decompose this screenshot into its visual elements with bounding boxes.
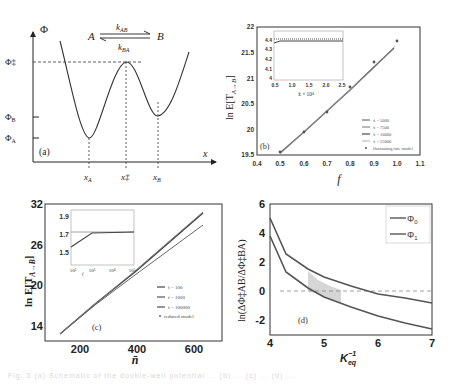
b-xtick: 0.4 [252, 160, 261, 167]
a-reaction-right: B [157, 30, 164, 42]
b-inset-frame [274, 31, 343, 80]
d-ytick: 4 [259, 227, 266, 239]
b-xtick: 0.9 [369, 160, 378, 167]
c-inset-frame [71, 210, 134, 265]
b-inset-ytick: 4 [269, 75, 272, 81]
b-inset-xtick: 2.0 [323, 82, 330, 88]
panel-c: 32 26 20 14 200 400 600 n̄ ln E[TA→B] (c… [22, 198, 222, 367]
b-inset-ytick: 4.4 [265, 37, 272, 43]
a-xb: xB [152, 172, 161, 183]
c-legend-item: f = 100 [168, 285, 183, 290]
c-legend: f = 100 f = 1000 f = 100000 reduced mode… [157, 285, 194, 319]
c-xtick: 600 [185, 343, 203, 355]
b-xtick: 0.7 [322, 160, 331, 167]
b-xtick: 0.8 [345, 160, 354, 167]
d-ytick: -2 [255, 314, 265, 326]
c-ytick: 26 [31, 239, 43, 251]
b-ytick: 20 [247, 126, 255, 133]
c-inset-xtick: 10⁴ [109, 268, 116, 273]
d-xtick: 6 [375, 337, 381, 349]
c-inset-ytick: 1.9 [59, 213, 69, 220]
b-legend-item: x̄ = 7500 [373, 125, 390, 130]
b-xtick: 1.1 [415, 160, 424, 167]
b-ytick: 22 [247, 23, 255, 30]
b-ytick: 21 [247, 75, 255, 82]
b-inset-xtick: 1.5 [306, 82, 313, 88]
b-ytick: 21.5 [241, 49, 254, 56]
a-reaction-left: A [87, 30, 95, 42]
c-inset-xlabel: f [82, 271, 84, 276]
c-inset-xtick: 10³ [89, 268, 96, 273]
d-ylabel: ln(ΔΦ‡AB/ΔΦ‡BA) [236, 240, 248, 322]
b-legend-item: fluctuating rate model [373, 146, 413, 151]
d-shaded-region [308, 271, 341, 303]
figure: Φ x Φ‡ ΦB ΦA (a) xA x‡ xB A B kAB kBA 22… [0, 0, 451, 385]
b-inset-xtick: 2.5 [339, 82, 346, 88]
c-inset-ytick: 1.7 [59, 231, 69, 238]
b-inset-xlabel: x̄ × 10⁴ [298, 91, 314, 97]
a-xlabel: x [202, 148, 208, 159]
panel-a: Φ x Φ‡ ΦB ΦA (a) xA x‡ xB A B kAB kBA [5, 22, 216, 183]
d-xtick: 7 [429, 337, 435, 349]
a-k-ba: kBA [118, 42, 130, 53]
a-phi-ddag: Φ‡ [5, 57, 17, 67]
d-ytick: 0 [259, 285, 265, 297]
a-phi-a: ΦA [5, 133, 17, 144]
c-xlabel: n̄ [132, 353, 139, 367]
a-phi-b: ΦB [5, 112, 16, 123]
b-legend: x̄ = 5000 x̄ = 7500 x̄ = 10000 x̄ = 2500… [362, 118, 413, 151]
c-legend-item: f = 1000 [168, 295, 185, 300]
b-legend-item: x̄ = 10000 [373, 132, 392, 137]
d-xtick: 4 [267, 337, 274, 349]
d-xtick: 5 [321, 337, 327, 349]
b-inset-ytick: 4.1 [265, 66, 272, 72]
c-ytick: 32 [31, 198, 43, 210]
b-inset-xtick: 1.0 [289, 82, 296, 88]
a-potential-curve [60, 41, 189, 138]
b-legend-item: x̄ = 5000 [373, 118, 390, 123]
d-ytick: 2 [259, 256, 265, 268]
b-legend-item: x̄ = 25000 [373, 139, 392, 144]
b-ytick: 20.5 [241, 100, 254, 107]
c-ytick: 14 [31, 320, 44, 332]
a-ylabel: Φ [40, 23, 48, 35]
b-xtick: 0.6 [299, 160, 308, 167]
c-xtick: 200 [71, 343, 89, 355]
a-k-ab: kAB [116, 22, 128, 33]
c-legend-item: f = 100000 [168, 305, 190, 310]
a-panel-label: (a) [39, 147, 50, 158]
c-inset-xtick: 10² [70, 268, 77, 273]
b-inset-xtick: 0.5 [272, 82, 279, 88]
panel-b: 22 21.5 21 20.5 20 19.5 0.4 0.5 0.6 0.7 … [224, 23, 425, 186]
d-panel-label: (d) [298, 315, 308, 325]
b-ytick: 19.5 [241, 151, 254, 158]
d-xlabel: Keq−1 [340, 350, 357, 367]
a-xddag: x‡ [120, 172, 130, 182]
a-xa: xA [83, 172, 92, 183]
b-panel-label: (b) [260, 142, 270, 151]
b-ylabel: ln E[TA→B] [224, 75, 238, 120]
b-xlabel: f [337, 172, 342, 186]
c-inset-ytick: 1.5 [59, 249, 69, 256]
panel-d: 6 4 2 0 -2 4 5 6 7 Keq−1 ln(ΔΦ‡AB/ΔΦ‡BA)… [236, 198, 435, 367]
d-line-phi1 [270, 236, 432, 329]
b-xtick: 0.5 [275, 160, 284, 167]
figure-caption-faint: Fig. 3 (a) Schematic of the double-well … [8, 372, 444, 382]
c-inset-xtick: 10⁵ [129, 268, 136, 273]
b-inset-ytick: 4.3 [265, 46, 272, 52]
c-legend-item: reduced model [164, 314, 194, 319]
c-panel-label: (c) [92, 322, 102, 332]
d-ytick: 6 [259, 198, 265, 210]
b-inset-ytick: 4.2 [265, 56, 272, 62]
b-xtick: 1.0 [392, 160, 401, 167]
